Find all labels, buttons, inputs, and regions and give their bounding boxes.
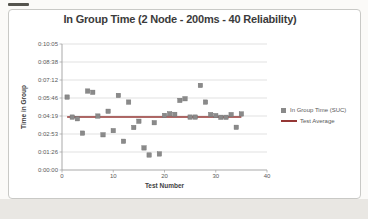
data-point-marker[interactable] — [111, 128, 115, 132]
data-point-marker[interactable] — [188, 115, 192, 119]
data-point-marker[interactable] — [208, 112, 212, 116]
data-point-marker[interactable] — [167, 112, 171, 116]
y-tick-label: 0:08:38 — [16, 59, 58, 66]
data-point-marker[interactable] — [183, 97, 187, 101]
data-point-marker[interactable] — [229, 112, 233, 116]
x-tick-label: 10 — [103, 173, 123, 180]
legend-label: Test Average — [300, 118, 335, 124]
data-point-marker[interactable] — [152, 121, 156, 125]
data-point-marker[interactable] — [224, 115, 228, 119]
screen: In Group Time (2 Node - 200ms - 40 Relia… — [0, 0, 368, 219]
legend-item-average[interactable]: Test Average — [281, 118, 365, 124]
x-tick-label: 40 — [257, 173, 277, 180]
legend-label: In Group Time (SUC) — [290, 107, 346, 113]
legend: In Group Time (SUC) Test Average — [281, 107, 365, 129]
data-point-marker[interactable] — [178, 98, 182, 102]
data-point-marker[interactable] — [137, 119, 141, 123]
data-point-marker[interactable] — [203, 100, 207, 104]
y-tick-label: 0:10:05 — [16, 41, 58, 48]
line-swatch — [281, 120, 297, 122]
data-point-marker[interactable] — [234, 125, 238, 129]
data-point-marker[interactable] — [96, 114, 100, 118]
data-point-marker[interactable] — [85, 89, 89, 93]
data-point-marker[interactable] — [91, 90, 95, 94]
x-tick-label: 20 — [155, 173, 175, 180]
x-tick-label: 30 — [206, 173, 226, 180]
data-point-marker[interactable] — [239, 112, 243, 116]
data-point-marker[interactable] — [106, 109, 110, 113]
y-tick-label: 0:04:19 — [16, 113, 58, 120]
data-point-marker[interactable] — [75, 117, 79, 121]
data-point-marker[interactable] — [214, 113, 218, 117]
data-point-marker[interactable] — [162, 113, 166, 117]
data-point-marker[interactable] — [65, 95, 69, 99]
data-point-marker[interactable] — [121, 139, 125, 143]
legend-item-series[interactable]: In Group Time (SUC) — [281, 107, 365, 113]
data-point-marker[interactable] — [142, 146, 146, 150]
data-point-marker[interactable] — [70, 115, 74, 119]
data-point-marker[interactable] — [101, 133, 105, 137]
data-point-marker[interactable] — [116, 93, 120, 97]
y-tick-label: 0:07:12 — [16, 77, 58, 84]
data-point-marker[interactable] — [219, 115, 223, 119]
data-point-marker[interactable] — [147, 153, 151, 157]
y-tick-label: 0:05:46 — [16, 95, 58, 102]
y-tick-label: 0:01:26 — [16, 149, 58, 156]
data-point-marker[interactable] — [198, 83, 202, 87]
square-marker-swatch — [281, 108, 286, 113]
y-tick-label: 0:02:53 — [16, 131, 58, 138]
data-point-marker[interactable] — [126, 100, 130, 104]
x-tick-label: 0 — [52, 173, 72, 180]
data-point-marker[interactable] — [157, 152, 161, 156]
data-point-marker[interactable] — [80, 131, 84, 135]
data-point-marker[interactable] — [193, 115, 197, 119]
data-point-marker[interactable] — [132, 125, 136, 129]
data-point-marker[interactable] — [173, 112, 177, 116]
